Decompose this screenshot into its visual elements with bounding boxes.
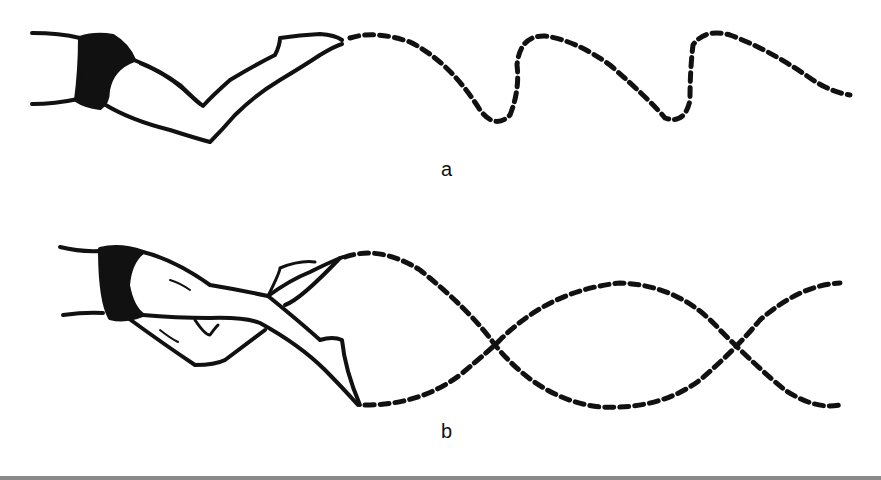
trajectory-a	[350, 33, 850, 121]
swimmer-b	[60, 247, 360, 405]
swimmer-a	[32, 33, 342, 142]
panel-label-b: b	[441, 420, 452, 443]
bottom-divider	[0, 476, 881, 480]
kick-diagram	[0, 0, 881, 480]
swimsuit-b	[100, 247, 143, 319]
panel-label-a: a	[441, 158, 452, 181]
trajectory-b-upper	[345, 253, 840, 407]
trajectory-b-lower	[365, 283, 840, 406]
swimsuit-a	[76, 35, 134, 108]
